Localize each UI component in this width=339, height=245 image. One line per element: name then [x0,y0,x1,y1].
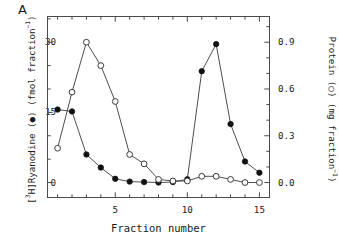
data-point-ryanodine-12 [213,41,218,46]
data-point-protein-6 [127,152,133,158]
data-point-protein-2 [69,89,75,95]
data-point-protein-3 [84,39,90,45]
data-point-ryanodine-1 [55,107,60,112]
data-point-protein-8 [156,177,162,183]
data-point-protein-5 [112,99,118,105]
data-point-ryanodine-15 [257,170,262,175]
axis-frame [48,17,270,198]
data-point-ryanodine-2 [69,109,74,114]
data-point-ryanodine-6 [127,179,132,184]
series-line-protein [58,42,260,182]
data-point-protein-10 [184,178,190,184]
superscript-minus-one-right: −1 [332,169,339,177]
data-point-protein-13 [228,177,234,183]
data-point-protein-11 [199,173,205,179]
data-point-ryanodine-14 [242,159,247,164]
series-line-ryanodine [58,44,260,182]
data-point-ryanodine-13 [228,121,233,126]
data-point-protein-9 [170,178,176,184]
data-point-ryanodine-7 [141,179,146,184]
data-point-protein-15 [257,180,263,186]
data-point-ryanodine-3 [84,152,89,157]
data-point-protein-1 [55,145,61,151]
data-point-protein-12 [213,173,219,179]
data-point-protein-14 [242,180,248,186]
data-point-ryanodine-5 [113,176,118,181]
data-point-ryanodine-11 [199,69,204,74]
data-point-protein-7 [141,161,147,167]
data-point-ryanodine-4 [98,165,103,170]
data-point-protein-4 [98,63,104,69]
